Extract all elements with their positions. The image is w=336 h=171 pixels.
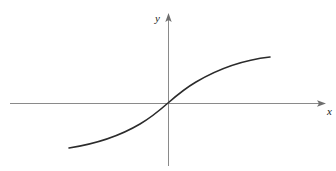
plot-svg: x y xyxy=(0,0,336,171)
x-axis-label: x xyxy=(326,105,332,117)
figure-canvas: x y xyxy=(0,0,336,171)
x-axis: x xyxy=(10,100,332,117)
data-series-curve xyxy=(69,57,270,148)
sigmoid-curve-path xyxy=(69,57,270,148)
y-axis: y xyxy=(154,12,172,166)
y-axis-label: y xyxy=(154,12,160,24)
